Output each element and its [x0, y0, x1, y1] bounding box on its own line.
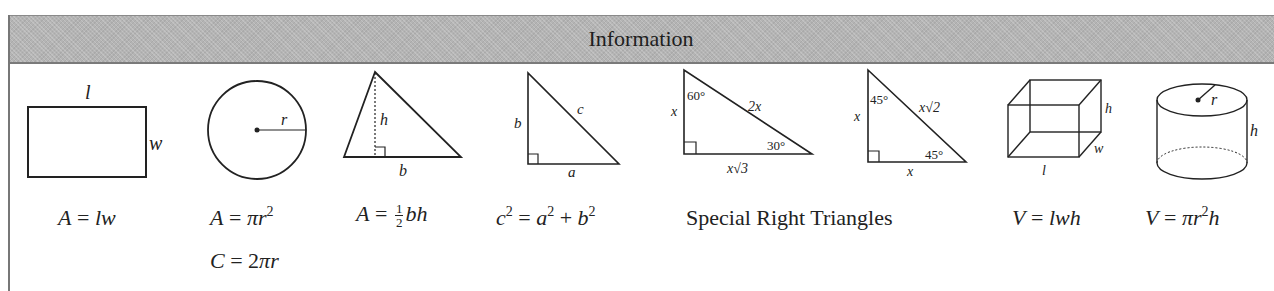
triangle-figure [344, 72, 461, 157]
information-panel: Information l w r h b b c a [0, 0, 1274, 291]
formula-pythagorean: c2 = a2 + b2 [496, 205, 596, 231]
triangle-height-label: h [380, 111, 388, 128]
triangle-45-45-90-top-angle-label: 45° [870, 92, 888, 107]
cylinder-figure [1157, 84, 1247, 179]
circle-center-dot [255, 128, 260, 133]
rectangle-width-label: w [149, 132, 163, 154]
triangle-45-45-90-bottom-angle-label: 45° [925, 147, 943, 162]
fraction-one-half: 12 [395, 202, 404, 229]
triangle-30-60-90-long-leg-label: x√3 [726, 161, 748, 176]
rectangle-length-label: l [85, 81, 91, 103]
box-length-label: l [1042, 163, 1046, 178]
right-triangle-b-label: b [514, 115, 522, 131]
triangle-30-60-90-hypotenuse-label: 2x [748, 99, 762, 114]
triangle-45-45-90-hypotenuse-label: x√2 [918, 100, 940, 115]
triangle-45-45-90-horizontal-leg-label: x [906, 164, 914, 179]
triangle-base-label: b [399, 162, 407, 179]
triangle-45-45-90-vertical-leg-label: x [853, 109, 861, 124]
formula-box-volume: V = lwh [1012, 205, 1081, 231]
triangle-45-45-90-figure [868, 70, 966, 162]
formula-rectangle-area: A = lw [58, 205, 116, 231]
triangle-30-60-90-top-angle-label: 60° [687, 88, 705, 103]
right-triangle-a-label: a [568, 164, 576, 180]
box-figure [1008, 80, 1101, 157]
cylinder-height-label: h [1250, 122, 1258, 139]
cylinder-radius-label: r [1211, 91, 1218, 108]
cylinder-center-dot [1196, 98, 1201, 103]
right-triangle-figure [528, 73, 619, 164]
triangle-30-60-90-short-leg-label: x [670, 104, 678, 119]
formula-circle-circumference: C = 2πr [210, 248, 279, 274]
figures-canvas: l w r h b b c a x 60° 2x [0, 0, 1274, 291]
formula-triangle-area: A = 12bh [356, 201, 427, 229]
box-width-label: w [1094, 141, 1104, 156]
triangle-30-60-90-bottom-angle-label: 30° [767, 138, 785, 153]
box-height-label: h [1105, 101, 1112, 116]
formula-cylinder-volume: V = πr2h [1145, 205, 1219, 231]
right-triangle-c-label: c [577, 101, 584, 117]
rectangle-figure [28, 107, 146, 177]
formula-circle-area: A = πr2 [210, 205, 273, 231]
circle-radius-label: r [281, 111, 288, 128]
special-right-triangles-label: Special Right Triangles [686, 205, 893, 231]
